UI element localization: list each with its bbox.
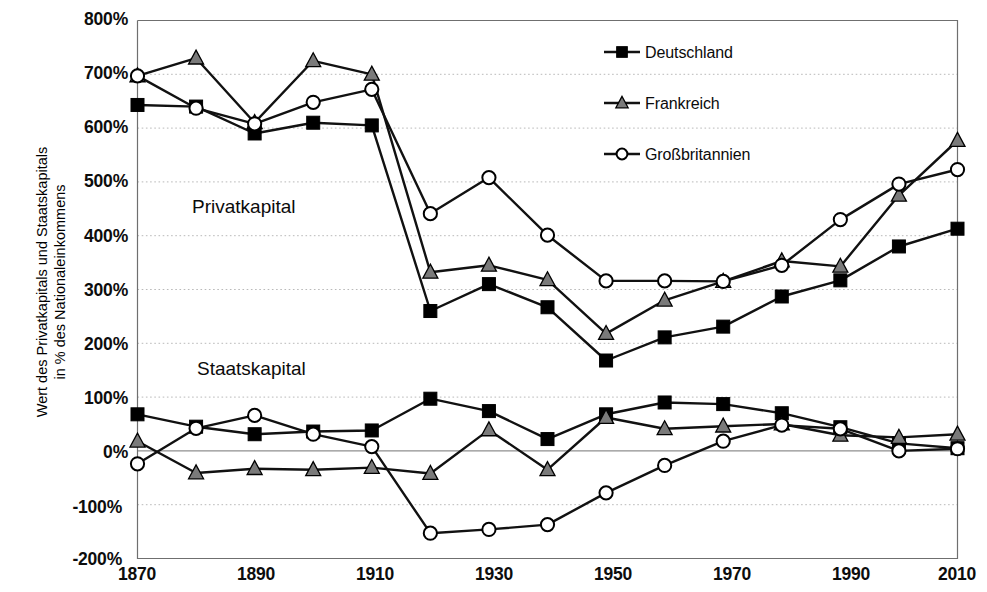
legend-label-deutschland: Deutschland	[645, 44, 733, 62]
y-axis-tick-label: 600%	[58, 117, 128, 138]
y-axis-title-line-1: Wert des Privatkapitals und Staatskapita…	[33, 117, 51, 447]
legend-label-grossbritannien: Großbritannien	[645, 146, 750, 164]
y-axis-tick-label: 500%	[58, 171, 128, 192]
y-axis-tick-label: 200%	[58, 334, 128, 355]
chart-plot-area	[0, 0, 987, 592]
x-axis-tick-label: 1950	[573, 564, 653, 585]
annotation-staatskapital: Staatskapital	[197, 358, 306, 380]
x-axis-tick-label: 1910	[335, 564, 415, 585]
y-axis-tick-label: -100%	[52, 497, 122, 518]
x-axis-tick-label: 1970	[692, 564, 772, 585]
y-axis-tick-label: 0%	[58, 442, 128, 463]
legend-label-frankreich: Frankreich	[645, 95, 720, 113]
legend-markers-group	[604, 47, 640, 160]
x-axis-tick-label: 1930	[454, 564, 534, 585]
y-axis-tick-label: 100%	[58, 388, 128, 409]
x-axis-tick-label: 1870	[97, 564, 177, 585]
chart-figure: Wert des Privatkapitals und Staatskapita…	[0, 0, 987, 592]
y-axis-tick-label: 400%	[58, 226, 128, 247]
data-series-group	[130, 50, 965, 540]
y-axis-tick-label: 700%	[58, 63, 128, 84]
y-axis-tick-label: 800%	[58, 9, 128, 30]
y-axis-tick-label: 300%	[58, 280, 128, 301]
annotation-privatkapital: Privatkapital	[192, 196, 296, 218]
x-axis-tick-label: 1990	[811, 564, 891, 585]
x-axis-tick-label: 1890	[216, 564, 296, 585]
x-axis-tick-label: 2010	[917, 564, 987, 585]
